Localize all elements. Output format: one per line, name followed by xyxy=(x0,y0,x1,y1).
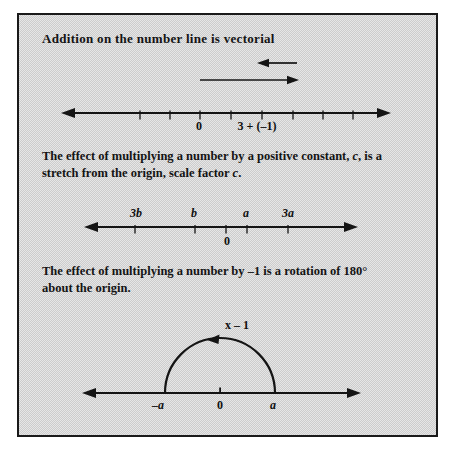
page: Addition on the number line is vectorial… xyxy=(0,0,451,450)
section3-heading: The effect of multiplying a number by –1… xyxy=(42,263,367,297)
section3-heading-line2: about the origin. xyxy=(42,280,367,297)
s1-number-line xyxy=(61,108,391,120)
s3-a-label: a xyxy=(270,398,276,413)
s2-b-label: b xyxy=(191,206,197,221)
s1-left-vector-arrow xyxy=(257,59,297,67)
section2-heading-line2: stretch from the origin, scale factor c. xyxy=(42,165,382,182)
s3-multiply-by-neg-one-label: x – 1 xyxy=(225,318,249,333)
diagram-canvas xyxy=(0,0,451,450)
section3-heading-line1: The effect of multiplying a number by –1… xyxy=(42,263,367,280)
s2-three-a-label: 3a xyxy=(282,206,294,221)
s3-zero-tick xyxy=(219,388,221,394)
s3-neg-a-label: –a xyxy=(152,398,164,413)
s2-a-label: a xyxy=(243,206,249,221)
s2-zero-label: 0 xyxy=(224,234,230,249)
s1-right-vector-arrow xyxy=(200,76,299,84)
section1-heading: Addition on the number line is vectorial xyxy=(42,30,275,47)
s3-rotation-arc xyxy=(165,338,275,393)
s3-number-line xyxy=(82,388,361,399)
s2-number-line xyxy=(84,222,358,234)
s3-zero-label: 0 xyxy=(217,398,223,413)
section2-heading: The effect of multiplying a number by a … xyxy=(42,148,382,182)
s1-zero-label: 0 xyxy=(196,119,202,134)
s2-three-b-label: 3b xyxy=(130,206,142,221)
s1-sum-label: 3 + (–1) xyxy=(238,119,277,134)
section2-heading-line1: The effect of multiplying a number by a … xyxy=(42,148,382,165)
s3-arc-arrowhead xyxy=(207,335,220,345)
